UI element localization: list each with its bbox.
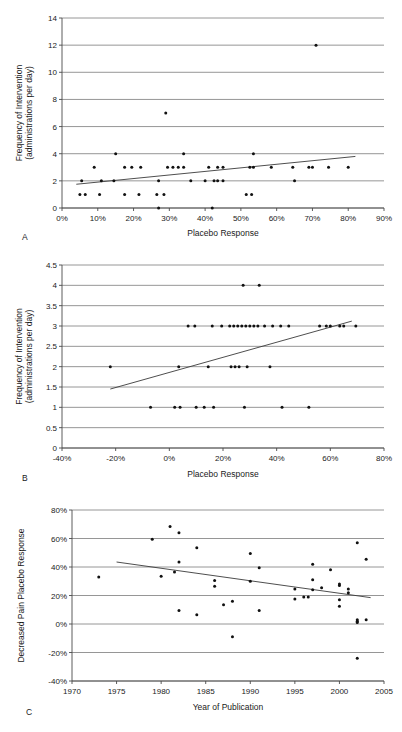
y-tick-label: -40% <box>48 677 67 686</box>
y-tick-label: 3 <box>53 322 58 331</box>
data-point <box>213 179 216 182</box>
data-point <box>268 365 271 368</box>
data-point <box>311 588 314 591</box>
data-point <box>252 152 255 155</box>
data-point <box>236 325 239 328</box>
data-point <box>195 613 198 616</box>
data-point <box>270 166 273 169</box>
data-point <box>155 193 158 196</box>
data-point <box>189 179 192 182</box>
data-point <box>177 531 180 534</box>
y-tick-label: 80% <box>51 506 67 515</box>
y-axis-title-line1: Frequency of Intervention <box>14 308 24 405</box>
y-tick-label: -20% <box>48 649 67 658</box>
data-point <box>97 575 100 578</box>
data-point <box>271 325 274 328</box>
data-point <box>179 406 182 409</box>
data-point <box>173 406 176 409</box>
x-tick-label: 30% <box>161 214 177 223</box>
data-point <box>252 166 255 169</box>
y-axis-title-line2: (administrations per day) <box>24 310 34 404</box>
data-point <box>123 193 126 196</box>
x-tick-label: 1970 <box>63 687 81 696</box>
data-point <box>244 325 247 328</box>
y-tick-label: 0% <box>55 620 67 629</box>
data-point <box>338 584 341 587</box>
data-point <box>232 325 235 328</box>
y-tick-label: 4 <box>53 281 58 290</box>
x-tick-label: 1995 <box>286 687 304 696</box>
y-tick-label: 8 <box>53 95 58 104</box>
x-tick-label: 80% <box>340 214 356 223</box>
data-point <box>307 595 310 598</box>
data-point <box>157 207 160 210</box>
data-point <box>320 586 323 589</box>
y-tick-label: 4.5 <box>46 261 58 270</box>
data-point <box>245 193 248 196</box>
data-point <box>195 406 198 409</box>
data-point <box>171 166 174 169</box>
y-tick-label: 3.5 <box>46 302 58 311</box>
data-point <box>149 406 152 409</box>
panel-a: 024681012140%10%20%30%40%50%60%70%80%90%… <box>0 0 402 245</box>
data-point <box>338 598 341 601</box>
data-point <box>222 603 225 606</box>
data-point <box>213 579 216 582</box>
data-point <box>207 365 210 368</box>
x-tick-label: 0% <box>56 214 68 223</box>
data-point <box>329 325 332 328</box>
data-point <box>230 365 233 368</box>
data-point <box>250 193 253 196</box>
data-point <box>212 406 215 409</box>
data-point <box>123 166 126 169</box>
x-tick-label: 50% <box>233 214 249 223</box>
scatter-plot-b: 00.511.522.533.544.5-40%-20%0%20%40%60%8… <box>0 245 402 485</box>
data-point <box>109 365 112 368</box>
data-point <box>216 179 219 182</box>
x-tick-label: 40% <box>269 454 285 463</box>
data-point <box>100 179 103 182</box>
data-point <box>293 598 296 601</box>
y-axis-title-line2: (administrations per day) <box>24 66 34 160</box>
data-point <box>249 580 252 583</box>
x-axis-title: Placebo Response <box>187 228 259 238</box>
data-point <box>243 406 246 409</box>
data-point <box>211 325 214 328</box>
data-point <box>182 152 185 155</box>
data-point <box>166 166 169 169</box>
data-point <box>238 365 241 368</box>
data-point <box>207 166 210 169</box>
panel-b: 00.511.522.533.544.5-40%-20%0%20%40%60%8… <box>0 245 402 485</box>
data-point <box>281 406 284 409</box>
data-point <box>347 588 350 591</box>
data-point <box>256 325 259 328</box>
data-point <box>173 570 176 573</box>
panel-letter: A <box>22 232 28 242</box>
data-point <box>258 284 261 287</box>
data-point <box>258 609 261 612</box>
data-point <box>177 561 180 564</box>
data-point <box>263 325 266 328</box>
data-point <box>325 325 328 328</box>
data-point <box>211 207 214 210</box>
data-point <box>311 166 314 169</box>
data-point <box>258 566 261 569</box>
y-tick-label: 20% <box>51 592 67 601</box>
x-tick-label: 60% <box>322 454 338 463</box>
data-point <box>242 284 245 287</box>
data-point <box>162 193 165 196</box>
x-tick-label: 0% <box>164 454 176 463</box>
panel-letter: C <box>26 707 32 717</box>
data-point <box>293 588 296 591</box>
data-point <box>246 365 249 368</box>
data-point <box>177 609 180 612</box>
data-point <box>354 325 357 328</box>
data-point <box>112 179 115 182</box>
data-point <box>195 546 198 549</box>
data-point <box>356 657 359 660</box>
x-tick-label: 70% <box>304 214 320 223</box>
trend-line <box>110 321 351 389</box>
data-point <box>307 166 310 169</box>
y-tick-label: 4 <box>53 150 58 159</box>
data-point <box>347 591 350 594</box>
